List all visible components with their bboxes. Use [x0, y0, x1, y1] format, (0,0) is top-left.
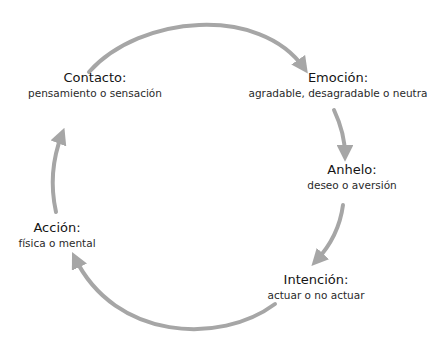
- arrow-accion-to-contacto: [53, 134, 62, 212]
- node-contacto: Contacto: pensamiento o sensación: [28, 70, 162, 100]
- node-subtitle: actuar o no actuar: [268, 288, 365, 302]
- node-accion: Acción: física o mental: [18, 220, 95, 250]
- node-title: Emoción:: [249, 70, 428, 86]
- node-emocion: Emoción: agradable, desagradable o neutr…: [249, 70, 428, 100]
- node-subtitle: agradable, desagradable o neutra: [249, 86, 428, 100]
- node-title: Anhelo:: [307, 162, 396, 178]
- arrow-intencion-to-accion: [75, 258, 275, 329]
- node-title: Acción:: [18, 220, 95, 236]
- node-title: Intención:: [268, 272, 365, 288]
- node-subtitle: pensamiento o sensación: [28, 86, 162, 100]
- node-intencion: Intención: actuar o no actuar: [268, 272, 365, 302]
- arrow-contacto-to-emocion: [89, 25, 304, 72]
- arrow-anhelo-to-intencion: [316, 205, 343, 261]
- node-anhelo: Anhelo: deseo o aversión: [307, 162, 396, 192]
- node-subtitle: deseo o aversión: [307, 178, 396, 192]
- arrow-emocion-to-anhelo: [334, 110, 345, 155]
- node-title: Contacto:: [28, 70, 162, 86]
- node-subtitle: física o mental: [18, 236, 95, 250]
